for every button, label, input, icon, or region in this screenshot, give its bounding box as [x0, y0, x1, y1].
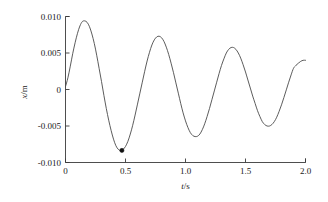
x-axis-ticks — [66, 159, 306, 163]
x-tick-label-3: 1.5 — [240, 166, 252, 176]
x-tick-label-1: 0.5 — [120, 166, 132, 176]
x-axis-title: t/s — [181, 181, 190, 191]
damped-oscillation-chart: 0.010 0.005 0 -0.005 -0.010 0 0.5 1.0 1.… — [0, 0, 328, 202]
y-axis-title: x/m — [19, 85, 29, 100]
axis-spines — [66, 17, 306, 163]
y-tick-label-2: 0 — [57, 85, 62, 95]
x-axis-tick-labels: 0 0.5 1.0 1.5 2.0 — [63, 166, 311, 176]
x-tick-label-0: 0 — [63, 166, 68, 176]
y-tick-label-4: -0.010 — [38, 158, 62, 168]
x-tick-label-4: 2.0 — [300, 166, 312, 176]
y-axis-ticks — [66, 17, 70, 163]
x-tick-label-2: 1.0 — [180, 166, 192, 176]
data-series-line — [66, 21, 306, 151]
y-tick-label-1: 0.005 — [41, 48, 62, 58]
minimum-marker-point — [120, 148, 124, 152]
y-tick-label-3: -0.005 — [38, 121, 62, 131]
chart-figure: 0.010 0.005 0 -0.005 -0.010 0 0.5 1.0 1.… — [0, 0, 328, 202]
y-tick-label-0: 0.010 — [41, 12, 62, 22]
x-axis-title-unit: s — [186, 181, 190, 191]
y-axis-tick-labels: 0.010 0.005 0 -0.005 -0.010 — [38, 12, 62, 168]
y-axis-title-unit: m — [19, 85, 29, 92]
